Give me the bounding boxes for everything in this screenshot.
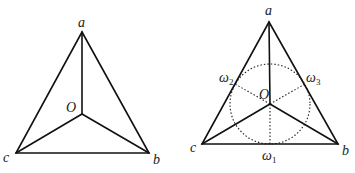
right-dotted-O-w3: [270, 84, 305, 104]
svg-text:3: 3: [316, 77, 321, 87]
left-label-c: c: [3, 150, 10, 165]
right-label-b: b: [342, 143, 349, 158]
right-figure: a b c O ω 1 ω 2 ω 3: [190, 3, 349, 165]
right-edge-aO: [269, 22, 270, 104]
left-figure: a b c O: [3, 15, 160, 167]
svg-text:2: 2: [229, 77, 234, 87]
diagram-canvas: a b c O a b c O ω 1 ω 2 ω 3: [0, 0, 355, 173]
right-label-a: a: [265, 3, 272, 18]
left-label-O: O: [66, 100, 76, 115]
right-label-c: c: [190, 140, 197, 155]
right-label-w3: ω 3: [306, 70, 321, 87]
svg-text:ω: ω: [306, 70, 316, 85]
svg-text:ω: ω: [219, 70, 229, 85]
right-label-O: O: [259, 87, 269, 102]
svg-text:ω: ω: [262, 148, 272, 163]
left-label-a: a: [78, 15, 85, 30]
right-edge-Ob: [270, 104, 338, 144]
left-label-b: b: [153, 152, 160, 167]
right-label-w1: ω 1: [262, 148, 277, 165]
svg-text:1: 1: [272, 155, 277, 165]
right-label-w2: ω 2: [219, 70, 234, 87]
